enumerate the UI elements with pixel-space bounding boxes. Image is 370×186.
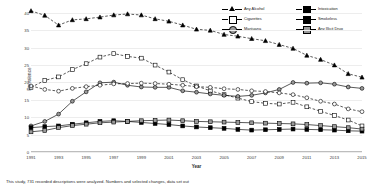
data-point <box>139 56 143 60</box>
x-tick-label: 1991 <box>26 155 35 160</box>
data-point <box>153 85 157 89</box>
data-point <box>264 128 268 132</box>
data-point <box>319 124 323 128</box>
data-point <box>181 119 185 123</box>
data-point <box>333 125 337 129</box>
data-point <box>181 124 185 128</box>
data-point <box>57 112 61 116</box>
data-point <box>264 121 268 125</box>
y-axis-label: Prevalence <box>27 68 32 91</box>
data-point <box>250 36 254 40</box>
data-point <box>346 126 350 130</box>
x-tick-label: 2001 <box>164 155 173 160</box>
data-point <box>208 120 212 124</box>
data-point <box>319 99 323 103</box>
x-tick-label: 2011 <box>302 155 311 160</box>
y-tick-label: 5 <box>15 132 29 137</box>
data-point <box>264 90 268 94</box>
data-point <box>208 85 212 89</box>
y-tick-label: 10 <box>15 115 29 120</box>
data-point <box>181 83 185 87</box>
data-point <box>277 102 281 106</box>
x-tick-label: 2005 <box>219 155 228 160</box>
data-point <box>29 9 33 13</box>
data-point <box>139 81 143 85</box>
data-point <box>98 121 102 125</box>
data-point <box>167 70 171 74</box>
data-point <box>112 82 116 86</box>
data-point <box>167 82 171 86</box>
x-tick-label: 1993 <box>54 155 63 160</box>
x-tick-label: 1999 <box>137 155 146 160</box>
data-point <box>305 123 309 127</box>
figure-caption: This study, 731 recorded descriptions we… <box>6 179 366 184</box>
data-point <box>70 124 74 128</box>
data-point <box>333 114 337 118</box>
data-point <box>333 102 337 106</box>
data-point <box>250 89 254 93</box>
data-point <box>305 128 309 132</box>
data-point <box>153 118 157 122</box>
data-point <box>153 82 157 86</box>
data-point <box>277 122 281 126</box>
data-point <box>222 87 226 91</box>
data-point <box>112 52 116 56</box>
data-point <box>98 83 102 87</box>
data-point <box>360 110 364 114</box>
data-point <box>222 120 226 124</box>
data-point <box>236 121 240 125</box>
data-point <box>43 78 47 82</box>
data-point <box>236 128 240 132</box>
data-point <box>43 120 47 124</box>
x-tick-label: 2009 <box>275 155 284 160</box>
data-point <box>43 88 47 92</box>
data-point <box>291 122 295 126</box>
data-point <box>70 68 74 72</box>
data-point <box>250 100 254 104</box>
x-tick-label: 2015 <box>357 155 366 160</box>
y-tick-label: 30 <box>15 45 29 50</box>
data-point <box>57 75 61 79</box>
data-point <box>195 85 199 89</box>
data-point <box>43 125 47 129</box>
x-tick-label: 2007 <box>247 155 256 160</box>
data-point <box>167 118 171 122</box>
data-point <box>222 93 226 97</box>
data-point <box>346 72 350 76</box>
data-point <box>236 88 240 92</box>
x-tick-label: 1997 <box>109 155 118 160</box>
data-point <box>43 129 47 133</box>
data-point <box>57 126 61 130</box>
data-point <box>264 101 268 105</box>
series-lines <box>31 6 362 152</box>
data-point <box>305 53 309 57</box>
y-tick-label: 40 <box>15 10 29 15</box>
data-point <box>195 125 199 129</box>
data-point <box>84 122 88 126</box>
y-tick-label: 0 <box>15 150 29 155</box>
data-point <box>250 121 254 125</box>
data-point <box>29 126 33 130</box>
data-point <box>208 92 212 96</box>
data-point <box>333 82 337 86</box>
data-point <box>181 89 185 93</box>
data-point <box>167 123 171 127</box>
data-point <box>277 128 281 132</box>
data-point <box>250 93 254 97</box>
x-tick-label: 1995 <box>81 155 90 160</box>
data-point <box>332 63 336 67</box>
x-axis-label: Year <box>192 164 202 169</box>
data-point <box>181 23 185 27</box>
data-point <box>305 105 309 109</box>
data-point <box>305 81 309 85</box>
y-tick-label: 35 <box>15 28 29 33</box>
series-cigarettes <box>29 52 364 128</box>
data-point <box>346 107 350 111</box>
data-point <box>98 55 102 59</box>
data-point <box>360 127 364 131</box>
data-point <box>43 13 47 17</box>
data-point <box>126 120 130 124</box>
data-point <box>84 90 88 94</box>
gridline <box>31 152 362 153</box>
data-point <box>139 119 143 123</box>
